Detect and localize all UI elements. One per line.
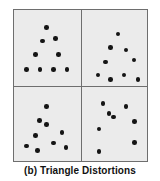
data-point: [96, 73, 101, 78]
figure-caption: (b) Triangle Distortions: [0, 165, 160, 176]
data-point: [116, 32, 121, 37]
panel-grid: [13, 9, 148, 162]
data-point: [124, 48, 129, 53]
data-point: [35, 148, 40, 153]
data-point: [132, 58, 137, 63]
data-point: [33, 133, 38, 138]
panel-top-right: [81, 10, 148, 86]
data-point: [24, 144, 29, 149]
data-point: [24, 67, 29, 72]
data-point: [132, 119, 137, 124]
data-point: [108, 77, 113, 82]
data-point: [60, 130, 65, 135]
data-point: [51, 141, 56, 146]
data-point: [53, 36, 58, 41]
triangle-distortions-figure: (b) Triangle Distortions: [0, 0, 160, 181]
data-point: [101, 101, 106, 106]
data-point: [136, 77, 141, 82]
data-point: [33, 52, 38, 57]
data-point: [44, 104, 49, 109]
data-point: [56, 52, 61, 57]
data-point: [65, 67, 70, 72]
data-point: [44, 25, 49, 30]
data-point: [124, 104, 129, 109]
data-point: [51, 67, 56, 72]
data-point: [97, 127, 102, 132]
data-point: [97, 149, 102, 154]
panel-top-left: [14, 10, 81, 86]
data-point: [64, 145, 69, 150]
data-point: [132, 140, 137, 145]
data-point: [40, 39, 45, 44]
panel-bottom-left: [14, 86, 81, 162]
panel-bottom-right: [81, 86, 148, 162]
data-point: [103, 60, 108, 65]
data-point: [111, 115, 116, 120]
data-point: [108, 45, 113, 50]
data-point: [38, 67, 43, 72]
data-point: [122, 73, 127, 78]
data-point: [44, 122, 49, 127]
data-point: [37, 118, 42, 123]
